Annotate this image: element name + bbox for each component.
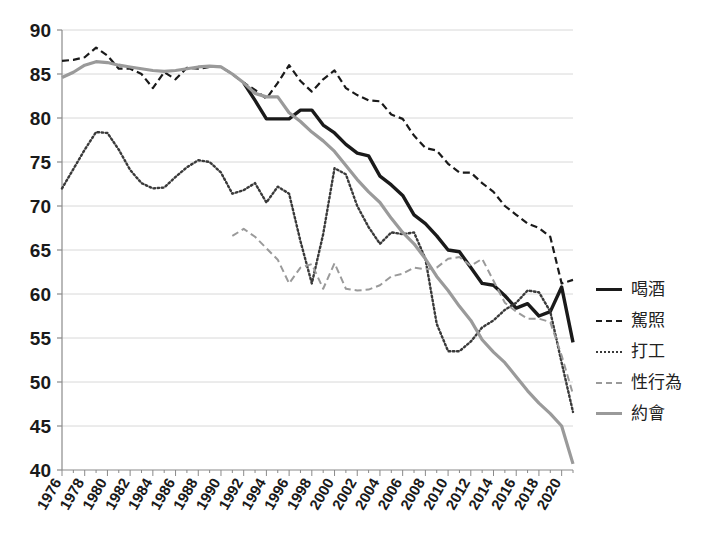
y-tick-label: 45 — [30, 416, 52, 437]
x-tick-label: 2020 — [533, 475, 564, 512]
gridlines — [62, 30, 573, 426]
legend-swatch-icon — [596, 288, 622, 291]
axes — [57, 30, 573, 476]
legend-item-2[interactable]: 駕照 — [596, 312, 665, 329]
series-line — [62, 132, 573, 412]
y-tick-label: 55 — [30, 328, 52, 349]
line-chart: 9085807570656055504540 19761978198019821… — [0, 0, 713, 554]
y-tick-label: 50 — [30, 372, 51, 393]
legend-label: 約會 — [631, 405, 665, 422]
y-tick-label: 85 — [30, 64, 52, 85]
y-tick-label: 80 — [30, 108, 51, 129]
legend-item-5[interactable]: 約會 — [596, 405, 665, 422]
y-tick-label: 60 — [30, 284, 51, 305]
legend-label: 性行為 — [631, 374, 682, 391]
legend-item-4[interactable]: 性行為 — [596, 374, 682, 391]
legend-label: 打工 — [631, 343, 665, 360]
x-axis-tick-labels: 1976197819801982198419861988199019921994… — [33, 474, 564, 512]
legend-swatch-icon — [596, 320, 622, 322]
legend-swatch-icon — [596, 351, 622, 353]
chart-container: 9085807570656055504540 19761978198019821… — [0, 0, 713, 554]
legend-item-3[interactable]: 打工 — [596, 343, 665, 360]
legend-swatch-icon — [596, 382, 622, 384]
series-line — [62, 48, 573, 284]
legend-swatch-icon — [596, 412, 622, 415]
series-line — [232, 229, 573, 394]
legend-item-1[interactable]: 喝酒 — [596, 281, 665, 298]
y-tick-label: 70 — [30, 196, 51, 217]
y-tick-label: 75 — [30, 152, 52, 173]
data-series — [62, 48, 573, 464]
legend-label: 駕照 — [631, 312, 665, 329]
y-tick-label: 90 — [30, 20, 51, 41]
legend-label: 喝酒 — [631, 281, 665, 298]
y-axis-tick-labels: 9085807570656055504540 — [30, 20, 52, 481]
y-tick-label: 65 — [30, 240, 52, 261]
